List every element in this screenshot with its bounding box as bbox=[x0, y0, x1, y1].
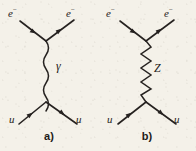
quark-in-line bbox=[118, 102, 146, 124]
diagram-panel-a: e− e− u u γ a) bbox=[0, 0, 98, 151]
label-electron-incoming: e− bbox=[8, 8, 17, 19]
label-electron-outgoing: e− bbox=[164, 8, 173, 19]
z-propagator-zigzag bbox=[141, 41, 151, 102]
label-electron-incoming: e− bbox=[106, 8, 115, 19]
label-quark-incoming: u bbox=[107, 114, 113, 125]
label-electron-outgoing: e− bbox=[66, 8, 75, 19]
arrowhead-quark-out bbox=[59, 109, 65, 115]
photon-propagator-wave bbox=[44, 41, 49, 111]
label-z-boson: Z bbox=[154, 62, 161, 74]
panel-caption-b: b) bbox=[98, 130, 196, 142]
label-quark-incoming: u bbox=[9, 114, 15, 125]
panel-caption-a: a) bbox=[0, 130, 98, 142]
label-quark-outgoing: u bbox=[76, 114, 82, 125]
label-photon: γ bbox=[56, 60, 61, 72]
feynman-diagram-figure: e− e− u u γ a) bbox=[0, 0, 196, 151]
label-quark-outgoing: u bbox=[174, 114, 180, 125]
diagram-panel-b: e− e− u u Z b) bbox=[98, 0, 196, 151]
